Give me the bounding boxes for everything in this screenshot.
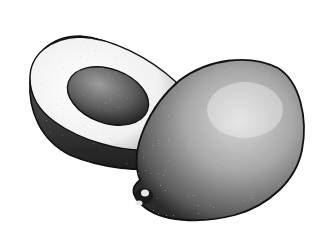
avocado-illustration — [0, 0, 335, 238]
illustration-canvas — [0, 0, 335, 238]
skin-highlight — [207, 82, 283, 138]
